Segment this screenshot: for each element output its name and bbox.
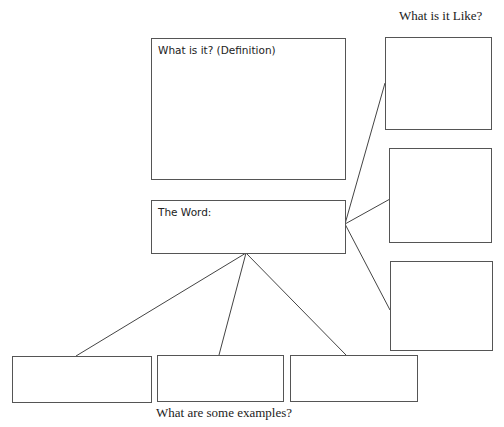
- like-caption: What is it Like?: [399, 8, 482, 24]
- connector-word-to-example-2: [219, 253, 246, 355]
- like-box-1[interactable]: [385, 37, 492, 130]
- example-box-3[interactable]: [290, 355, 418, 402]
- example-box-2[interactable]: [157, 355, 284, 402]
- definition-box[interactable]: What is it? (Definition): [151, 38, 346, 180]
- connector-word-to-example-1: [76, 253, 246, 356]
- word-label: The Word:: [158, 206, 211, 218]
- connector-word-to-like-3: [345, 224, 390, 310]
- examples-caption: What are some examples?: [156, 405, 292, 421]
- connector-word-to-like-1: [345, 83, 385, 224]
- word-box[interactable]: The Word:: [151, 200, 346, 254]
- connector-word-to-example-3: [246, 253, 346, 355]
- like-box-3[interactable]: [390, 261, 493, 351]
- definition-label: What is it? (Definition): [158, 44, 276, 56]
- like-box-2[interactable]: [389, 148, 492, 243]
- example-box-1[interactable]: [12, 356, 152, 403]
- connector-word-to-like-2: [345, 199, 390, 224]
